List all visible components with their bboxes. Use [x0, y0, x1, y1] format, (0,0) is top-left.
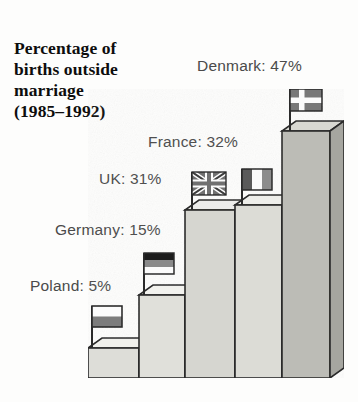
bar-denmark-face	[282, 131, 330, 378]
chart-figure: Percentage of births outside marriage (1…	[0, 0, 358, 402]
bar-uk-face	[185, 210, 235, 378]
bar-poland-face	[88, 348, 139, 378]
bar-denmark-side	[330, 121, 344, 378]
bar-france-face	[235, 205, 282, 378]
bar-denmark	[282, 121, 344, 378]
bar-germany-face	[139, 295, 185, 378]
chart-plot-area	[0, 0, 358, 402]
